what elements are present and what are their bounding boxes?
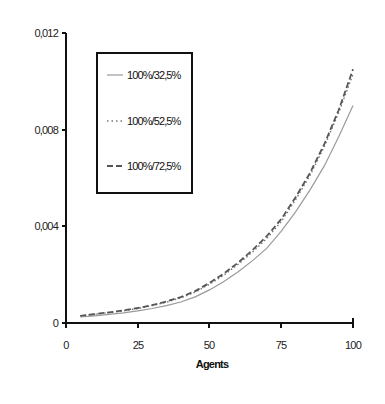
legend-label-3: 100%/72,5%	[127, 160, 181, 172]
x-axis-title: Agents	[196, 358, 229, 370]
x-tick-100: 100	[345, 339, 362, 351]
line-chart: 0,012 0,008 0,004 0 0 25 50 75 100 Agent…	[0, 0, 385, 404]
legend: 100%/32,5% 100%/52,5% 100%/72,5%	[97, 53, 192, 193]
legend-label-2: 100%/52,5%	[127, 115, 181, 127]
y-tick-0: 0	[53, 317, 59, 329]
legend-label-1: 100%/32,5%	[127, 69, 181, 81]
y-tick-0.004: 0,004	[34, 220, 58, 232]
x-tick-0: 0	[63, 339, 69, 351]
x-axis: 0 25 50 75 100 Agents	[63, 318, 361, 370]
x-tick-25: 25	[133, 339, 144, 351]
x-tick-75: 75	[276, 339, 287, 351]
y-axis: 0,012 0,008 0,004 0	[34, 27, 66, 329]
y-tick-0.008: 0,008	[34, 124, 58, 136]
x-tick-50: 50	[204, 339, 215, 351]
y-tick-0.012: 0,012	[34, 27, 58, 39]
